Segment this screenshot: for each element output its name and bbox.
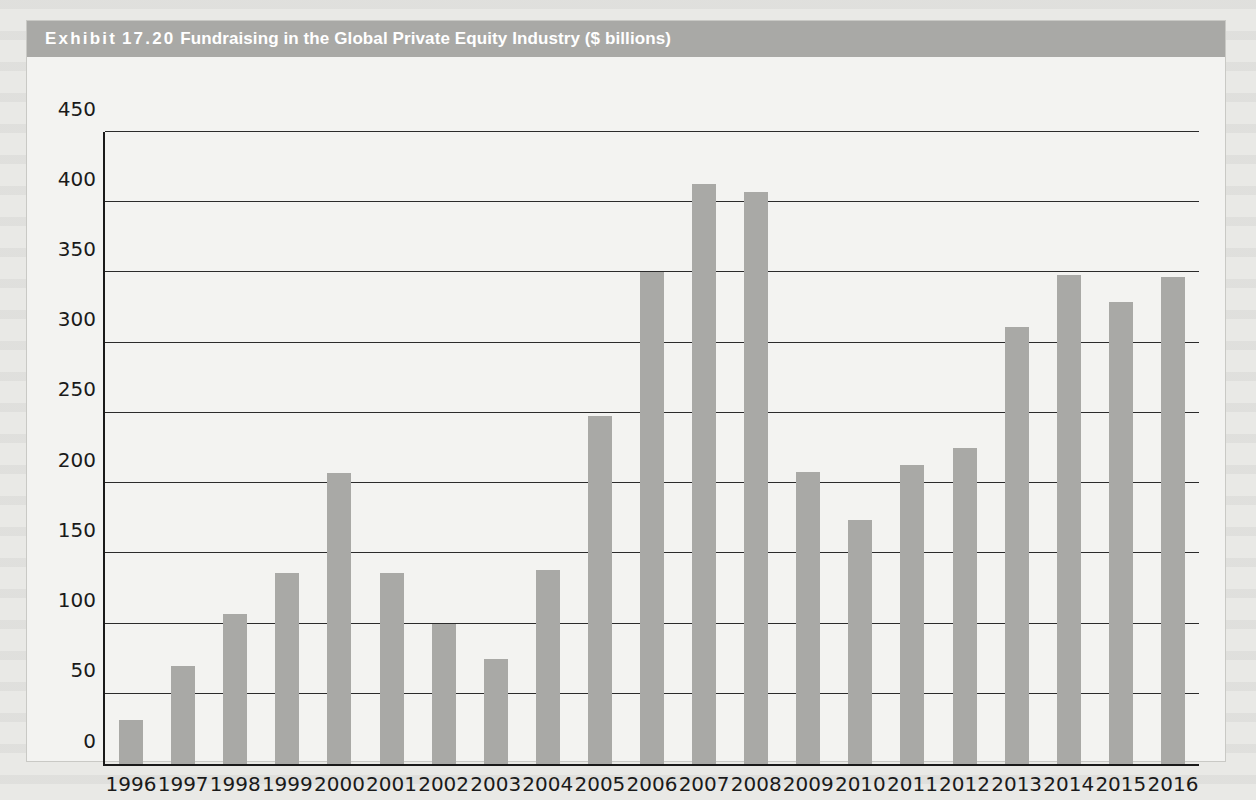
x-axis-tick-label: 2011 bbox=[887, 772, 938, 796]
bar[interactable] bbox=[536, 570, 560, 764]
bar[interactable] bbox=[432, 624, 456, 764]
bar[interactable] bbox=[900, 465, 924, 764]
bar-slot: 2013 bbox=[991, 132, 1043, 764]
y-axis-tick-label: 250 bbox=[58, 377, 105, 401]
bar[interactable] bbox=[380, 573, 404, 764]
x-axis-tick-label: 2005 bbox=[574, 772, 625, 796]
exhibit-label: Exhibit bbox=[45, 29, 117, 48]
x-axis-tick-label: 2004 bbox=[522, 772, 573, 796]
bar-slot: 2012 bbox=[939, 132, 991, 764]
bar-chart-plot: 050100150200250300350400450 199619971998… bbox=[103, 132, 1199, 766]
bar[interactable] bbox=[744, 192, 768, 764]
x-axis-tick-label: 2015 bbox=[1095, 772, 1146, 796]
x-axis-tick-label: 2000 bbox=[314, 772, 365, 796]
x-axis-tick-label: 2007 bbox=[679, 772, 730, 796]
bar-slot: 1998 bbox=[209, 132, 261, 764]
exhibit-header: Exhibit 17.20 Fundraising in the Global … bbox=[27, 21, 1225, 57]
bar-slot: 2001 bbox=[365, 132, 417, 764]
bar-slot: 2015 bbox=[1095, 132, 1147, 764]
bar[interactable] bbox=[1161, 277, 1185, 764]
y-axis-tick-label: 50 bbox=[71, 658, 105, 682]
bar-slot: 1997 bbox=[157, 132, 209, 764]
exhibit-number: 17.20 bbox=[122, 29, 176, 48]
x-axis-tick-label: 2002 bbox=[418, 772, 469, 796]
bar-slot: 2006 bbox=[626, 132, 678, 764]
x-axis-tick-label: 2016 bbox=[1147, 772, 1198, 796]
bar-slot: 2010 bbox=[834, 132, 886, 764]
y-axis-tick-label: 150 bbox=[58, 518, 105, 542]
bar-slot: 2007 bbox=[678, 132, 730, 764]
x-axis-tick-label: 1997 bbox=[158, 772, 209, 796]
bar-slot: 2011 bbox=[886, 132, 938, 764]
x-axis-tick-label: 2014 bbox=[1043, 772, 1094, 796]
y-axis-tick-label: 0 bbox=[83, 729, 105, 753]
x-axis-tick-label: 1998 bbox=[210, 772, 261, 796]
bar-slot: 2016 bbox=[1147, 132, 1199, 764]
bar-slot: 2000 bbox=[313, 132, 365, 764]
x-axis-tick-label: 1999 bbox=[262, 772, 313, 796]
bar[interactable] bbox=[1005, 327, 1029, 764]
bar[interactable] bbox=[796, 472, 820, 764]
bar[interactable] bbox=[119, 720, 143, 764]
bar[interactable] bbox=[1057, 275, 1081, 764]
exhibit-title-text: Fundraising in the Global Private Equity… bbox=[180, 29, 671, 48]
bar[interactable] bbox=[1109, 302, 1133, 764]
y-axis-tick-label: 200 bbox=[58, 448, 105, 472]
bar-slot: 1996 bbox=[105, 132, 157, 764]
y-axis-tick-label: 300 bbox=[58, 307, 105, 331]
exhibit-title: Exhibit 17.20 Fundraising in the Global … bbox=[45, 29, 671, 49]
y-axis-tick-label: 350 bbox=[58, 237, 105, 261]
bar-slot: 2004 bbox=[522, 132, 574, 764]
bar-slot: 2008 bbox=[730, 132, 782, 764]
x-axis-tick-label: 2012 bbox=[939, 772, 990, 796]
bar[interactable] bbox=[223, 614, 247, 764]
bar[interactable] bbox=[327, 473, 351, 764]
x-axis-tick-label: 2013 bbox=[991, 772, 1042, 796]
bar[interactable] bbox=[692, 184, 716, 764]
y-axis-tick-label: 100 bbox=[58, 588, 105, 612]
bar[interactable] bbox=[275, 573, 299, 764]
x-axis-tick-label: 2008 bbox=[731, 772, 782, 796]
x-axis-tick-label: 1996 bbox=[106, 772, 157, 796]
x-axis-tick-label: 2003 bbox=[470, 772, 521, 796]
y-axis-tick-label: 450 bbox=[58, 97, 105, 121]
bar[interactable] bbox=[953, 448, 977, 764]
bar[interactable] bbox=[171, 666, 195, 764]
x-axis-tick-label: 2001 bbox=[366, 772, 417, 796]
bar[interactable] bbox=[484, 659, 508, 764]
exhibit-panel: Exhibit 17.20 Fundraising in the Global … bbox=[26, 20, 1226, 762]
chart-area: 050100150200250300350400450 199619971998… bbox=[27, 57, 1225, 762]
x-axis-tick-label: 2010 bbox=[835, 772, 886, 796]
x-axis-tick-label: 2006 bbox=[627, 772, 678, 796]
y-axis-tick-label: 400 bbox=[58, 167, 105, 191]
bar-slot: 2003 bbox=[470, 132, 522, 764]
bar-slot: 2005 bbox=[574, 132, 626, 764]
x-axis-tick-label: 2009 bbox=[783, 772, 834, 796]
bar-slot: 2009 bbox=[782, 132, 834, 764]
bar[interactable] bbox=[848, 520, 872, 764]
bar[interactable] bbox=[640, 272, 664, 764]
bar-slot: 2014 bbox=[1043, 132, 1095, 764]
bar[interactable] bbox=[588, 416, 612, 764]
bar-series: 1996199719981999200020012002200320042005… bbox=[105, 132, 1199, 764]
bar-slot: 1999 bbox=[261, 132, 313, 764]
bar-slot: 2002 bbox=[418, 132, 470, 764]
